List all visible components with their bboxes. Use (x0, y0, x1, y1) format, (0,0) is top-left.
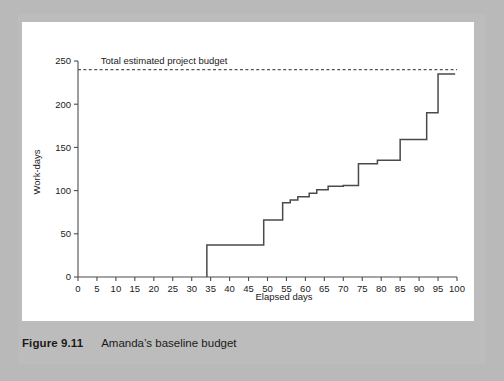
y-tick-label: 0 (66, 271, 71, 282)
x-tick-label: 75 (357, 283, 368, 294)
x-tick-label: 65 (319, 283, 330, 294)
axes-group (78, 61, 457, 277)
budget-threshold-label: Total estimated project budget (101, 55, 228, 66)
x-tick-label: 15 (130, 283, 141, 294)
x-axis-title: Elapsed days (255, 291, 312, 302)
plot-area: 050100150200250 051015202530354045505560… (55, 55, 465, 294)
figure-caption-text: Amanda’s baseline budget (101, 337, 236, 349)
y-tick-label: 250 (55, 55, 71, 66)
series-group (207, 74, 455, 277)
x-tick-label: 100 (449, 283, 465, 294)
y-tick-label: 100 (55, 185, 71, 196)
budget-step-line (207, 74, 455, 277)
y-tick-label: 200 (55, 99, 71, 110)
chart-svg: 050100150200250 051015202530354045505560… (22, 22, 474, 321)
x-tick-label: 25 (167, 283, 178, 294)
x-tick-label: 35 (205, 283, 216, 294)
y-tick-label: 50 (60, 228, 71, 239)
x-tick-label: 30 (186, 283, 197, 294)
y-axis-title: Work-days (31, 149, 42, 194)
x-tick-label: 40 (224, 283, 235, 294)
annotation-group: Total estimated project budget (78, 55, 457, 70)
x-tick-label: 10 (111, 283, 122, 294)
x-tick-label: 45 (243, 283, 254, 294)
x-tick-label: 95 (433, 283, 444, 294)
figure-caption: Figure 9.11 Amanda’s baseline budget (22, 330, 474, 356)
x-tick-label: 85 (395, 283, 406, 294)
x-tick-label: 80 (376, 283, 387, 294)
x-tick-label: 20 (149, 283, 160, 294)
chart-panel: 050100150200250 051015202530354045505560… (22, 22, 474, 321)
x-tick-label: 70 (338, 283, 349, 294)
figure-root: 050100150200250 051015202530354045505560… (0, 0, 504, 381)
x-tick-label: 0 (75, 283, 80, 294)
figure-caption-label: Figure 9.11 (22, 337, 83, 349)
y-tick-label: 150 (55, 142, 71, 153)
x-tick-label: 90 (414, 283, 425, 294)
x-tick-label: 5 (94, 283, 99, 294)
y-axis-ticks: 050100150200250 (55, 55, 78, 282)
